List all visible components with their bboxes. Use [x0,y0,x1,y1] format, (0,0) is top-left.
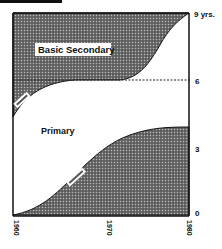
y-tick-0: 0 [195,209,200,218]
y-tick-9: 9 yrs. [194,10,215,19]
y-tick-6: 6 [195,77,200,86]
basic-secondary-label: Basic Secondary [38,44,115,55]
chart: Basic Secondary Primary 9 yrs. 6 3 0 196… [0,0,222,249]
x-tick-1960: 1960 [13,220,20,236]
basic-secondary-region [13,13,189,117]
x-tick-1970: 1970 [106,220,113,236]
lower-shaded-region [13,127,189,215]
y-tick-3: 3 [195,145,200,154]
primary-label: Primary [41,126,75,136]
x-tick-1980: 1980 [186,220,193,236]
